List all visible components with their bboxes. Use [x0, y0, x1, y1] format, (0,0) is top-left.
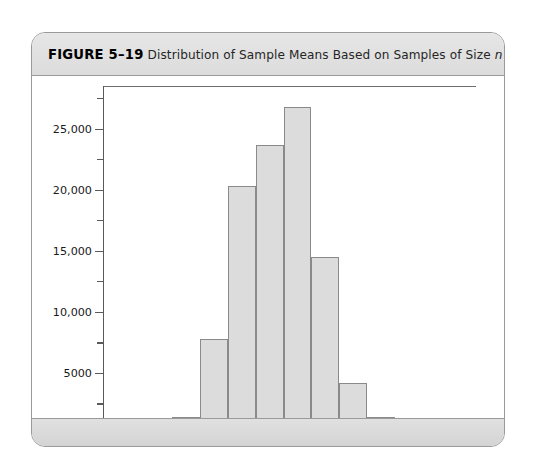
x-tick-label: 3.0	[97, 446, 137, 447]
figure-caption-part1: Distribution of Sample Means Based on Sa…	[148, 48, 495, 62]
histogram-chart: 0500010,00015,00020,00025,000 3.04.05.06…	[32, 76, 504, 418]
figure-title: FIGURE 5–19 Distribution of Sample Means…	[48, 47, 505, 62]
y-tick-label: 10,000	[32, 305, 92, 318]
figure-card: FIGURE 5–19 Distribution of Sample Means…	[31, 32, 505, 447]
y-tick-label: 20,000	[32, 183, 92, 196]
figure-number: FIGURE 5–19	[48, 47, 144, 62]
x-tick-label: 8.0	[375, 446, 415, 447]
y-tick-minor	[97, 281, 103, 282]
plot-top-rule	[103, 86, 476, 87]
histogram-bar	[256, 145, 284, 434]
y-tick-label: 25,000	[32, 122, 92, 135]
y-tick-major	[95, 373, 103, 374]
x-tick-label: 5.0	[208, 446, 248, 447]
y-tick-minor	[97, 98, 103, 99]
x-tick-label: 9.0	[430, 446, 470, 447]
y-tick-major	[95, 129, 103, 130]
y-tick-major	[95, 312, 103, 313]
figure-footer	[32, 418, 504, 446]
y-axis-line	[103, 86, 104, 435]
y-tick-minor	[97, 342, 103, 343]
x-tick-label: 7.0	[319, 446, 359, 447]
y-tick-label: 5000	[32, 366, 92, 379]
y-tick-major	[95, 251, 103, 252]
histogram-bar	[284, 107, 312, 434]
y-tick-minor	[97, 403, 103, 404]
y-tick-minor	[97, 220, 103, 221]
y-tick-label: 15,000	[32, 244, 92, 257]
y-tick-major	[95, 190, 103, 191]
x-tick-label: 6.0	[264, 446, 304, 447]
plot-body: 0500010,00015,00020,00025,000 3.04.05.06…	[32, 76, 504, 418]
histogram-bar	[311, 257, 339, 434]
x-tick-label: 4.0	[152, 446, 192, 447]
histogram-bar	[228, 186, 256, 434]
figure-caption-part2: = 10	[502, 48, 505, 62]
y-tick-minor	[97, 159, 103, 160]
figure-header: FIGURE 5–19 Distribution of Sample Means…	[32, 33, 504, 76]
